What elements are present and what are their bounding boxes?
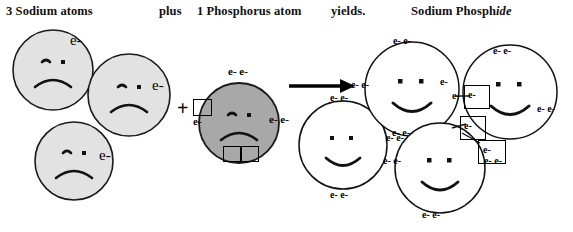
electron-label-sodium-1: e-	[70, 33, 82, 48]
electron-pair-ion2-top: e- e-	[330, 93, 348, 103]
electron-label-sodium-2: e-	[152, 78, 164, 93]
empty-orbital-box-bottom-2	[241, 146, 259, 162]
sodium-atom-2	[88, 54, 170, 136]
electron-pair-ion2-bottom: e- e-	[330, 190, 348, 200]
electron-pair-ion3-topleft: e- e-	[386, 133, 404, 143]
transferred-electron-label-2: e-	[464, 121, 472, 131]
electron-pair-ion4-top: e- e-	[493, 46, 511, 56]
empty-orbital-box-bottom-1	[223, 146, 241, 162]
transferred-electron-label-3: e-	[483, 145, 491, 155]
empty-orbital-box-left	[193, 99, 212, 116]
electron-pair-phosphorus-right: e- e-	[269, 114, 289, 125]
reaction-arrow	[289, 79, 355, 93]
electron-label-sodium-3: e-	[99, 148, 111, 163]
electron-pair-ion1-right: e-	[440, 77, 448, 87]
electron-pair-ion4-right: e- e-	[537, 104, 555, 114]
electron-pair-ion1-left: e- e-	[351, 80, 369, 90]
electron-pair-ion1-top: e- e-	[393, 36, 411, 46]
electron-pair-ion3-left: e- e-	[383, 156, 401, 166]
electron-pair-phosphorus-top: e- e-	[228, 66, 248, 77]
electron-pair-ion3-bottom: e- e-	[422, 210, 440, 220]
electron-pair-phosphorus-left: e-	[193, 116, 202, 127]
plus-sign: +	[177, 98, 188, 118]
electron-pair-ion4-left: e-	[452, 91, 460, 101]
product-ion-2	[365, 42, 459, 136]
chemistry-reaction-diagram: 3 Sodium atoms plus 1 Phosphorus atom yi…	[0, 0, 573, 232]
transferred-electron-label-1: e-	[468, 90, 476, 100]
